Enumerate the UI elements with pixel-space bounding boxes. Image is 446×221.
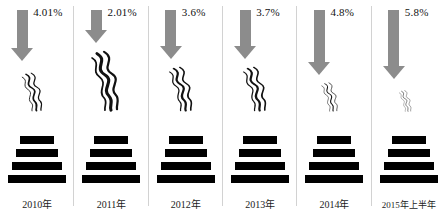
emission-trend-infographic: 4.01%2010年2.01%2011年3.6%2012年3.7%2013年4.… xyxy=(0,0,446,221)
smokestack-bars xyxy=(5,136,69,183)
year-label: 2011年 xyxy=(74,196,148,211)
stack-bar xyxy=(157,175,215,183)
year-column: 4.01%2010年 xyxy=(0,0,74,221)
stack-bar xyxy=(243,136,277,144)
stack-bar xyxy=(313,149,355,157)
stack-bar xyxy=(16,149,58,157)
stack-bar xyxy=(90,149,132,157)
year-label: 2010年 xyxy=(0,196,74,211)
smoke-plume-icon xyxy=(167,66,201,112)
smokestack-bars xyxy=(228,136,292,183)
down-arrow-icon xyxy=(234,10,256,59)
year-label: 2013年 xyxy=(223,196,297,211)
year-column: 3.6%2012年 xyxy=(149,0,223,221)
year-label: 2012年 xyxy=(149,196,223,211)
percent-label: 5.8% xyxy=(405,6,446,18)
year-label: 2015年上半年 xyxy=(372,198,446,211)
stack-bar xyxy=(94,136,128,144)
stack-bar xyxy=(384,162,434,170)
smoke-plume-icon xyxy=(398,90,416,112)
stack-bar xyxy=(317,136,351,144)
smoke-plume-icon xyxy=(20,72,50,112)
stack-bar xyxy=(12,162,62,170)
smoke-plume-icon xyxy=(241,66,275,112)
stack-bar xyxy=(309,162,359,170)
stack-bar xyxy=(380,175,438,183)
stack-bar xyxy=(231,175,289,183)
down-arrow-icon xyxy=(11,10,33,61)
down-arrow-icon xyxy=(308,10,330,75)
stack-bar xyxy=(392,136,426,144)
smoke-plume-icon xyxy=(89,50,129,112)
stack-bar xyxy=(82,175,140,183)
stack-bar xyxy=(8,175,66,183)
year-column: 4.8%2014年 xyxy=(297,0,371,221)
stack-bar xyxy=(169,136,203,144)
year-columns: 4.01%2010年2.01%2011年3.6%2012年3.7%2013年4.… xyxy=(0,0,446,221)
smokestack-bars xyxy=(302,136,366,183)
year-column: 3.7%2013年 xyxy=(223,0,297,221)
down-arrow-icon xyxy=(383,10,405,79)
stack-bar xyxy=(305,175,363,183)
year-column: 5.8%2015年上半年 xyxy=(372,0,446,221)
stack-bar xyxy=(388,149,430,157)
down-arrow-icon xyxy=(160,10,182,59)
stack-bar xyxy=(161,162,211,170)
smokestack-bars xyxy=(154,136,218,183)
smoke-plume-icon xyxy=(320,82,344,112)
down-arrow-icon xyxy=(85,10,107,43)
smokestack-bars xyxy=(377,136,441,183)
stack-bar xyxy=(239,149,281,157)
stack-bar xyxy=(86,162,136,170)
stack-bar xyxy=(20,136,54,144)
year-label: 2014年 xyxy=(297,196,371,211)
year-column: 2.01%2011年 xyxy=(74,0,148,221)
stack-bar xyxy=(165,149,207,157)
stack-bar xyxy=(235,162,285,170)
smokestack-bars xyxy=(79,136,143,183)
